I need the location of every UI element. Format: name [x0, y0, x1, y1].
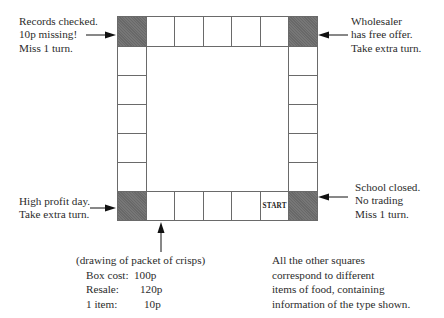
footnote-line: correspond to different: [272, 268, 410, 283]
example-square-info: (drawing of packet of crisps) Box cost: …: [76, 253, 205, 311]
info-value: 120p: [140, 282, 162, 297]
info-label: 1 item:: [86, 297, 144, 312]
footnote-line: items of food, containing: [272, 282, 410, 297]
arrow-right-icon: [90, 205, 116, 212]
info-label: Box cost:: [86, 268, 134, 283]
example-square-title: (drawing of packet of crisps): [76, 253, 205, 268]
arrow-left-icon: [318, 194, 348, 201]
info-row-box-cost: Box cost: 100p: [76, 268, 205, 283]
footnote: All the other squares correspond to diff…: [272, 253, 410, 311]
arrow-right-icon: [86, 32, 116, 39]
info-row-item: 1 item: 10p: [76, 297, 205, 312]
arrow-up-icon: [158, 222, 165, 252]
footnote-line: information of the type shown.: [272, 297, 410, 312]
arrow-left-icon: [318, 32, 348, 39]
info-value: 10p: [144, 297, 161, 312]
info-label: Resale:: [86, 282, 140, 297]
footnote-line: All the other squares: [272, 253, 410, 268]
info-value: 100p: [134, 268, 156, 283]
info-row-resale: Resale: 120p: [76, 282, 205, 297]
